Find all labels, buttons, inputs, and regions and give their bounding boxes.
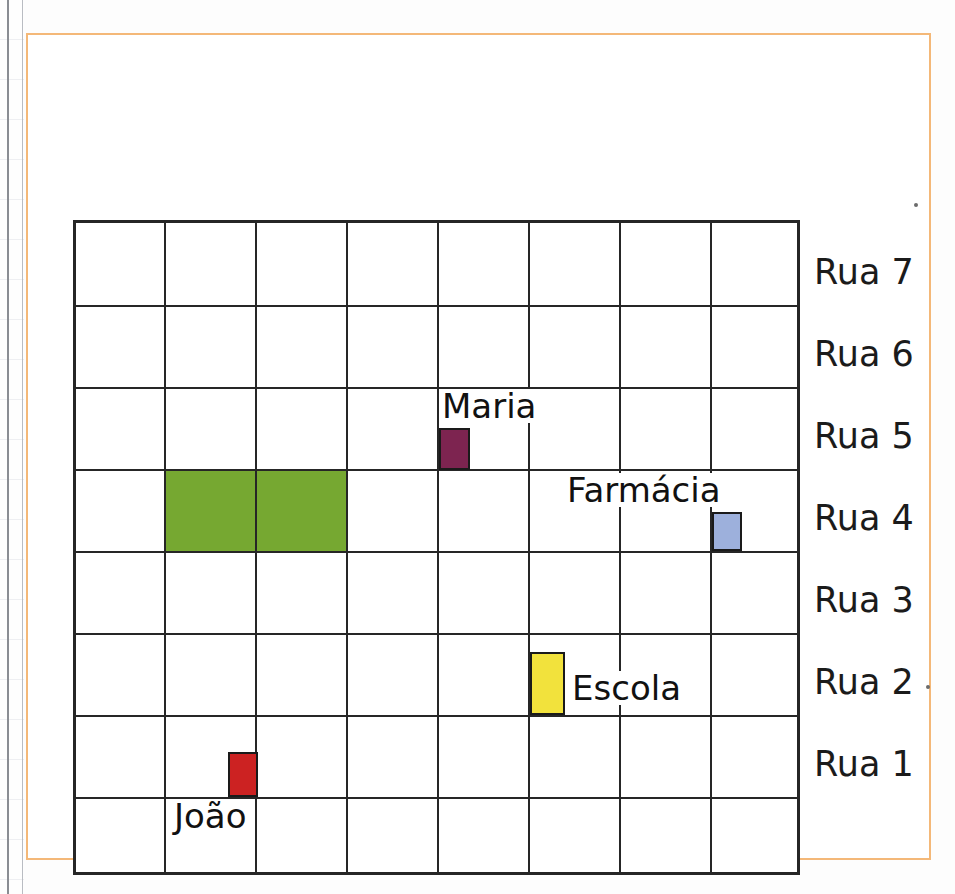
marker-escola[interactable]	[530, 652, 565, 715]
page-spine-line-outer	[7, 0, 9, 894]
scan-speck	[914, 203, 918, 207]
gridline-horizontal	[76, 633, 797, 635]
gridline-vertical	[164, 223, 166, 872]
gridline-vertical	[437, 223, 439, 872]
place-label-escola: Escola	[570, 671, 683, 705]
marker-joao[interactable]	[228, 752, 258, 797]
gridline-horizontal	[76, 387, 797, 389]
row-label-rua-3: Rua 3	[814, 583, 914, 618]
row-label-rua-2: Rua 2	[814, 665, 914, 700]
gridline-horizontal	[76, 305, 797, 307]
place-label-joao: João	[172, 799, 248, 833]
row-label-rua-1: Rua 1	[814, 747, 914, 782]
gridline-vertical	[346, 223, 348, 872]
place-label-farmacia: Farmácia	[565, 473, 723, 507]
row-label-rua-4: Rua 4	[814, 501, 914, 536]
row-label-rua-6: Rua 6	[814, 337, 914, 372]
marker-maria[interactable]	[439, 428, 470, 470]
gridline-horizontal	[76, 551, 797, 553]
place-label-maria: Maria	[440, 389, 538, 423]
gridline-vertical	[619, 223, 621, 872]
gridline-horizontal	[76, 715, 797, 717]
gridline-vertical	[528, 223, 530, 872]
scan-speck	[926, 685, 930, 689]
marker-farmacia[interactable]	[712, 512, 742, 551]
row-label-rua-7: Rua 7	[814, 255, 914, 290]
page-spine-line-inner	[22, 0, 23, 894]
row-label-rua-5: Rua 5	[814, 419, 914, 454]
diagram-frame: Rua A Rua B Rua C Rua D Rua E Rua F Rua …	[26, 33, 931, 860]
street-grid: Maria Farmácia Escola João	[73, 220, 800, 875]
